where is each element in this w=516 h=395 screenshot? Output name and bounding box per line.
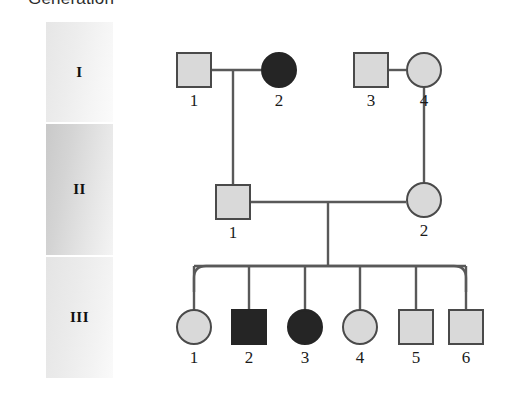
individual-i-1: 1 xyxy=(176,52,212,88)
unaffected-circle-symbol xyxy=(406,52,442,88)
individual-iii-2: 2 xyxy=(231,309,267,345)
individual-id-label: 1 xyxy=(229,223,238,243)
individual-id-label: 2 xyxy=(420,221,429,241)
affected-circle-symbol xyxy=(287,309,323,345)
individual-id-label: 2 xyxy=(275,91,284,111)
individual-id-label: 4 xyxy=(356,348,365,368)
affected-square-symbol xyxy=(231,309,267,345)
individual-i-4: 4 xyxy=(406,52,442,88)
individual-id-label: 4 xyxy=(420,91,429,111)
pedigree-chart: Generation I II III xyxy=(0,0,516,395)
individual-iii-3: 3 xyxy=(287,309,323,345)
sibship-line xyxy=(194,266,466,292)
individual-iii-6: 6 xyxy=(448,309,484,345)
individual-ii-2: 2 xyxy=(406,182,442,218)
individual-i-2: 2 xyxy=(261,52,297,88)
affected-circle-symbol xyxy=(261,52,297,88)
individual-id-label: 3 xyxy=(301,348,310,368)
unaffected-square-symbol xyxy=(353,52,389,88)
unaffected-circle-symbol xyxy=(342,309,378,345)
individual-id-label: 1 xyxy=(190,348,199,368)
unaffected-square-symbol xyxy=(176,52,212,88)
unaffected-circle-symbol xyxy=(176,309,212,345)
individual-id-label: 1 xyxy=(190,91,199,111)
individual-id-label: 3 xyxy=(367,91,376,111)
individual-iii-4: 4 xyxy=(342,309,378,345)
individual-iii-5: 5 xyxy=(398,309,434,345)
individual-ii-1: 1 xyxy=(215,184,251,220)
unaffected-square-symbol xyxy=(398,309,434,345)
unaffected-square-symbol xyxy=(448,309,484,345)
unaffected-circle-symbol xyxy=(406,182,442,218)
individual-i-3: 3 xyxy=(353,52,389,88)
individual-id-label: 5 xyxy=(412,348,421,368)
individual-id-label: 2 xyxy=(245,348,254,368)
individual-iii-1: 1 xyxy=(176,309,212,345)
unaffected-square-symbol xyxy=(215,184,251,220)
individual-id-label: 6 xyxy=(462,348,471,368)
